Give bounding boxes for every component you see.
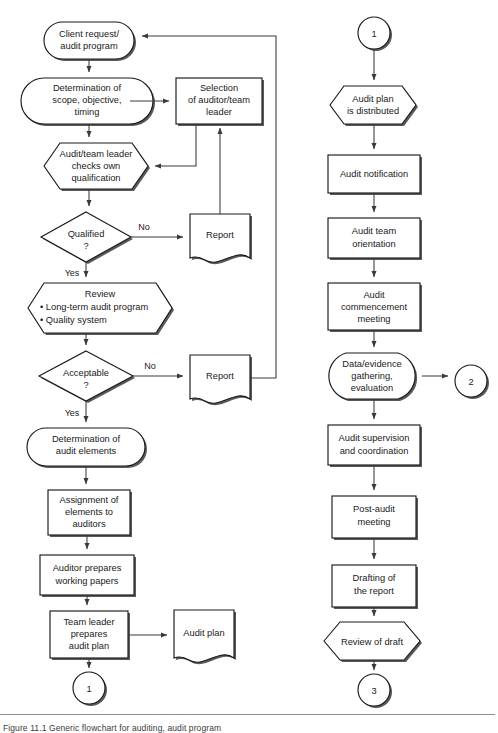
node-label: prepares: [71, 629, 108, 639]
node-label: • Quality system: [40, 315, 107, 325]
node-label: Audit plan: [183, 628, 224, 638]
node-label: meeting: [357, 517, 390, 527]
node-label: and coordination: [340, 446, 409, 456]
node-report-2: Report: [190, 355, 252, 405]
node-determination-elements: Determination of audit elements: [27, 428, 147, 468]
caption-divider: [0, 714, 495, 715]
node-audit-team-orientation: Audit team orientation: [328, 218, 422, 260]
node-label: Auditor prepares: [53, 563, 122, 573]
node-label: Determination of: [53, 83, 122, 93]
connector-1-out: 1: [73, 672, 107, 706]
node-label: Audit: [363, 290, 385, 300]
node-label: Report: [206, 230, 234, 240]
node-label: working papers: [54, 576, 118, 586]
node-label: leader: [206, 107, 232, 117]
node-label: gathering,: [351, 371, 392, 381]
node-label: Audit/team leader: [60, 149, 133, 159]
node-determination-scope: Determination of scope, objective, timin…: [21, 78, 155, 126]
node-qualified-decision: Qualified ?: [41, 212, 133, 264]
node-auditor-prepares: Auditor prepares working papers: [40, 555, 136, 597]
node-review-of-draft: Review of draft: [324, 622, 422, 662]
node-label: Selection: [200, 83, 238, 93]
node-audit-notification: Audit notification: [328, 155, 422, 195]
audit-flowchart: Client request/ audit program Determinat…: [0, 0, 498, 733]
edge-label-acceptable-yes: Yes: [65, 408, 80, 418]
node-label: ?: [83, 241, 88, 251]
connector-2: 2: [455, 365, 489, 399]
node-label: checks own: [72, 161, 121, 171]
node-label: Audit supervision: [339, 433, 410, 443]
node-label: audit plan: [69, 641, 109, 651]
node-label: evaluation: [351, 383, 393, 393]
node-label: commencement: [341, 302, 408, 312]
connector-3: 3: [358, 674, 392, 708]
node-label: scope, objective,: [52, 95, 121, 105]
node-label: auditors: [72, 519, 105, 529]
node-label: the report: [354, 586, 394, 596]
node-label: Drafting of: [353, 573, 396, 583]
edge-label-acceptable-no: No: [144, 361, 156, 371]
connector-label: 1: [86, 684, 91, 694]
node-commencement-meeting: Audit commencement meeting: [328, 283, 422, 332]
connector-label: 2: [468, 377, 473, 387]
node-plan-distributed: Audit plan is distributed: [330, 86, 418, 126]
node-label: Audit plan: [352, 94, 393, 104]
node-label: Review of draft: [341, 637, 403, 647]
node-label: Team leader: [63, 617, 114, 627]
node-report-1: Report: [190, 214, 252, 264]
node-checks-qualification: Audit/team leader checks own qualificati…: [44, 143, 150, 191]
node-audit-supervision: Audit supervision and coordination: [328, 425, 422, 467]
node-acceptable-decision: Acceptable ?: [39, 351, 135, 403]
node-label: elements to: [65, 507, 113, 517]
node-label: ?: [83, 380, 88, 390]
node-label: Post-audit: [353, 504, 395, 514]
node-post-audit-meeting: Post-audit meeting: [332, 496, 418, 540]
node-label: Review: [85, 289, 116, 299]
node-label: Client request/: [59, 29, 119, 39]
node-assignment-elements: Assignment of elements to auditors: [48, 490, 132, 537]
node-review: Review • Long-term audit program • Quali…: [28, 283, 174, 335]
node-label: audit program: [60, 41, 118, 51]
node-label: Acceptable: [63, 368, 109, 378]
connector-label: 1: [371, 29, 376, 39]
node-team-leader-prepares: Team leader prepares audit plan: [50, 611, 130, 660]
node-label: Audit notification: [340, 169, 408, 179]
node-label: Audit team: [352, 226, 397, 236]
node-label: timing: [75, 107, 100, 117]
node-label: audit elements: [56, 446, 117, 456]
node-label: Determination of: [52, 434, 121, 444]
connector-label: 3: [371, 686, 376, 696]
node-label: is distributed: [347, 106, 399, 116]
node-label: meeting: [357, 314, 390, 324]
node-selection-auditor: Selection of auditor/team leader: [176, 78, 264, 126]
edge-label-qualified-no: No: [138, 222, 150, 232]
connector-1-in: 1: [358, 17, 392, 51]
figure-caption: Figure 11.1 Generic flowchart for auditi…: [3, 723, 495, 733]
node-client-request: Client request/ audit program: [44, 22, 136, 61]
edge-label-qualified-yes: Yes: [65, 268, 80, 278]
node-label: qualification: [71, 173, 120, 183]
node-audit-plan-doc: Audit plan: [174, 610, 236, 664]
node-label: Report: [206, 371, 234, 381]
node-label: Qualified: [68, 229, 105, 239]
node-label: of auditor/team: [188, 95, 250, 105]
node-data-evidence: Data/evidence gathering, evaluation: [329, 353, 417, 401]
node-label: Assignment of: [60, 495, 119, 505]
node-label: Data/evidence: [342, 359, 401, 369]
node-label: orientation: [352, 239, 395, 249]
node-drafting-report: Drafting of the report: [332, 565, 418, 609]
node-label: • Long-term audit program: [40, 302, 148, 312]
